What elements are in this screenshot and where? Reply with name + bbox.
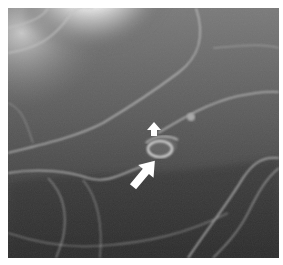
radiograph-image	[8, 8, 279, 258]
film-grain	[8, 8, 279, 258]
radiograph-svg	[8, 8, 279, 258]
